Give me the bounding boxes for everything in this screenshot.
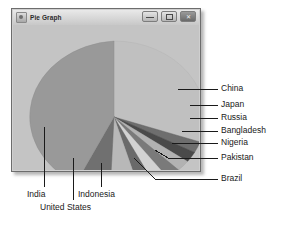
window-controls: ✕ bbox=[142, 11, 196, 22]
label-india: India bbox=[27, 189, 45, 199]
label-united-states: United States bbox=[40, 202, 91, 212]
close-icon: ✕ bbox=[181, 12, 195, 21]
minimize-icon bbox=[146, 17, 154, 18]
window-titlebar[interactable]: Pie Graph ✕ bbox=[13, 10, 199, 26]
screenshot-root: Pie Graph ✕ bbox=[0, 0, 293, 227]
window-title: Pie Graph bbox=[30, 14, 62, 21]
pie-graph-window: Pie Graph ✕ bbox=[11, 8, 201, 172]
pie-chart-icon bbox=[16, 12, 27, 23]
close-button[interactable]: ✕ bbox=[180, 11, 196, 22]
label-russia: Russia bbox=[221, 112, 247, 122]
label-china: China bbox=[221, 83, 243, 93]
label-indonesia: Indonesia bbox=[78, 189, 115, 199]
chart-canvas bbox=[13, 25, 199, 170]
maximize-button[interactable] bbox=[161, 11, 177, 22]
label-japan: Japan bbox=[221, 99, 244, 109]
minimize-button[interactable] bbox=[142, 11, 158, 22]
label-brazil: Brazil bbox=[221, 173, 242, 183]
pie-chart bbox=[13, 25, 199, 170]
pie-slices bbox=[30, 41, 199, 170]
label-bangladesh: Bangladesh bbox=[221, 125, 266, 135]
label-nigeria: Nigeria bbox=[221, 137, 248, 147]
maximize-icon bbox=[166, 14, 173, 20]
label-pakistan: Pakistan bbox=[221, 152, 254, 162]
